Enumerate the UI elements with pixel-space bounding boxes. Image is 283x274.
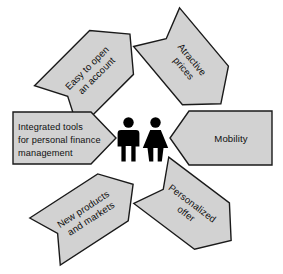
diagram-canvas: Easy to open an account Atractive prices… [0,0,283,274]
woman-legs-icon [148,148,154,162]
arrow-new-products-and-markets[interactable]: New products and markets [30,161,149,265]
woman-head-icon [150,117,160,127]
radial-arrow-diagram: Easy to open an account Atractive prices… [0,0,283,274]
man-body-icon [118,130,140,162]
arrow-label-left-line-1: Integrated tools [18,122,83,132]
arrow-mobility[interactable]: Mobility [170,111,272,165]
arrow-label-right: Mobility [214,133,247,144]
man-pictogram [118,117,140,161]
arrow-label-left-line-3: management [18,148,73,158]
arrow-label-right-line-1: Mobility [214,133,247,144]
woman-legs-icon-2 [158,148,164,162]
arrow-personalized-offer[interactable]: Personalized offer [134,157,249,264]
arrow-atractive-prices[interactable]: Atractive prices [134,8,244,123]
man-head-icon [123,117,133,127]
woman-body-icon [143,130,168,148]
woman-pictogram [143,117,168,161]
arrow-label-left-line-2: for personal finance [18,135,101,145]
arrow-integrated-tools[interactable]: Integrated tools for personal finance ma… [13,112,116,164]
